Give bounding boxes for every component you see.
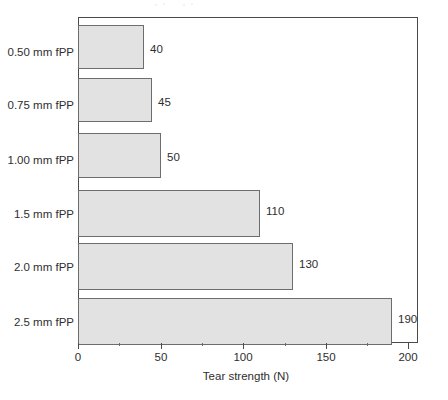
scan-artifact — [150, 1, 210, 8]
value-label-4: 130 — [299, 259, 318, 271]
category-label-4: 2.0 mm fPP — [14, 262, 74, 274]
x-tick-200 — [408, 343, 409, 349]
value-label-0: 40 — [150, 44, 163, 56]
category-label-3: 1.5 mm fPP — [14, 209, 74, 221]
x-tick-25 — [119, 343, 120, 346]
x-tick-label-50: 50 — [155, 352, 168, 364]
bar-0 — [78, 25, 144, 69]
bar-5 — [78, 298, 392, 345]
x-tick-150 — [326, 343, 327, 349]
x-tick-75 — [202, 343, 203, 346]
category-label-5: 2.5 mm fPP — [14, 317, 74, 329]
value-label-3: 110 — [266, 206, 284, 218]
x-tick-175 — [367, 343, 368, 346]
bar-4 — [78, 243, 293, 290]
x-tick-label-200: 200 — [398, 352, 417, 364]
x-tick-label-0: 0 — [75, 352, 81, 364]
x-axis-title-text: Tear strength (N) — [159, 370, 289, 382]
bar-3 — [78, 190, 260, 237]
value-label-2: 50 — [167, 152, 180, 164]
value-label-1: 45 — [158, 97, 171, 109]
category-axis: 0.50 mm fPP 0.75 mm fPP 1.00 mm fPP 1.5 … — [0, 0, 74, 400]
x-tick-125 — [285, 343, 286, 346]
x-axis-title: Tear strength (N) — [0, 371, 448, 383]
bar-chart-figure: 0.50 mm fPP 0.75 mm fPP 1.00 mm fPP 1.5 … — [0, 0, 448, 400]
category-label-1: 0.75 mm fPP — [8, 100, 74, 112]
bars-layer — [78, 17, 418, 343]
bar-2 — [78, 133, 161, 178]
x-tick-100 — [243, 343, 244, 349]
x-tick-label-150: 150 — [316, 352, 335, 364]
bar-1 — [78, 78, 152, 122]
x-tick-label-100: 100 — [233, 352, 252, 364]
value-label-5: 190 — [398, 314, 417, 326]
x-tick-0 — [78, 343, 79, 349]
category-label-2: 1.00 mm fPP — [8, 155, 74, 167]
x-tick-50 — [161, 343, 162, 349]
category-label-0: 0.50 mm fPP — [8, 47, 74, 59]
